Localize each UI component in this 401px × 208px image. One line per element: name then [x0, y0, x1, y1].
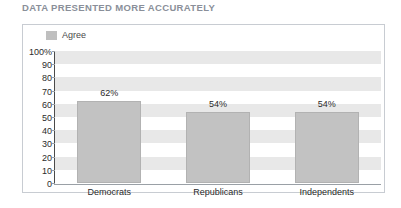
- y-tick-mark: [52, 157, 55, 158]
- bar-1[interactable]: [186, 112, 250, 183]
- y-tick-mark: [52, 130, 55, 131]
- y-tick-label: 30: [42, 140, 52, 149]
- chart-legend: Agree: [46, 31, 86, 40]
- x-category-label-2: Independents: [277, 188, 377, 197]
- y-tick-label: 10: [42, 167, 52, 176]
- y-tick-mark: [52, 77, 55, 78]
- y-tick-label: 90: [42, 61, 52, 70]
- y-tick-label: 0: [47, 180, 52, 189]
- y-tick-label: 80: [42, 74, 52, 83]
- y-axis-ticks: 100% 90 80 70 60 50 40 30 20 10 0: [23, 51, 52, 184]
- y-tick-mark: [52, 91, 55, 92]
- bar-0[interactable]: [77, 101, 141, 183]
- y-tick-mark: [52, 143, 55, 144]
- bar-2[interactable]: [295, 112, 359, 183]
- bar-value-label-1: 54%: [188, 100, 248, 109]
- x-category-label-0: Democrats: [59, 188, 159, 197]
- chart-frame: Agree 100% 90 80 70 60 50 40 30 20 10 0: [22, 24, 385, 193]
- legend-swatch-icon: [46, 31, 57, 40]
- bar-value-label-0: 62%: [79, 89, 139, 98]
- y-tick-mark: [52, 104, 55, 105]
- y-tick-mark: [52, 117, 55, 118]
- x-category-label-1: Republicans: [168, 188, 268, 197]
- y-tick-mark: [52, 170, 55, 171]
- y-tick-label: 60: [42, 101, 52, 110]
- x-axis-line: [54, 184, 381, 185]
- y-tick-mark: [52, 51, 55, 52]
- legend-item-label: Agree: [62, 31, 86, 40]
- y-tick-label: 100%: [29, 48, 52, 57]
- y-tick-label: 40: [42, 127, 52, 136]
- chart-title: DATA PRESENTED MORE ACCURATELY: [22, 2, 215, 13]
- y-tick-mark: [52, 183, 55, 184]
- y-tick-label: 20: [42, 154, 52, 163]
- grid-band: [55, 51, 381, 64]
- y-tick-label: 50: [42, 114, 52, 123]
- y-tick-mark: [52, 64, 55, 65]
- bar-value-label-2: 54%: [297, 100, 357, 109]
- y-tick-label: 70: [42, 88, 52, 97]
